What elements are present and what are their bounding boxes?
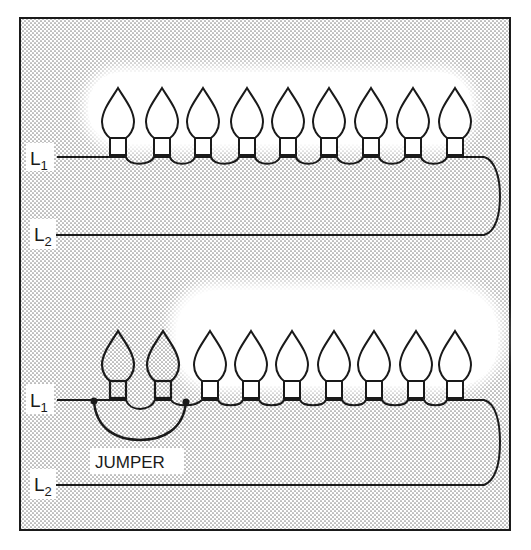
christmas-light-jumper-diagram: L1 L2 L1 [0, 0, 531, 550]
bottom-bulbs [102, 331, 471, 398]
jumper-label: JUMPER [95, 453, 165, 472]
jumper-connection-dot [91, 398, 98, 405]
jumper-connection-dot [183, 399, 190, 406]
top-bulbs [102, 88, 471, 155]
